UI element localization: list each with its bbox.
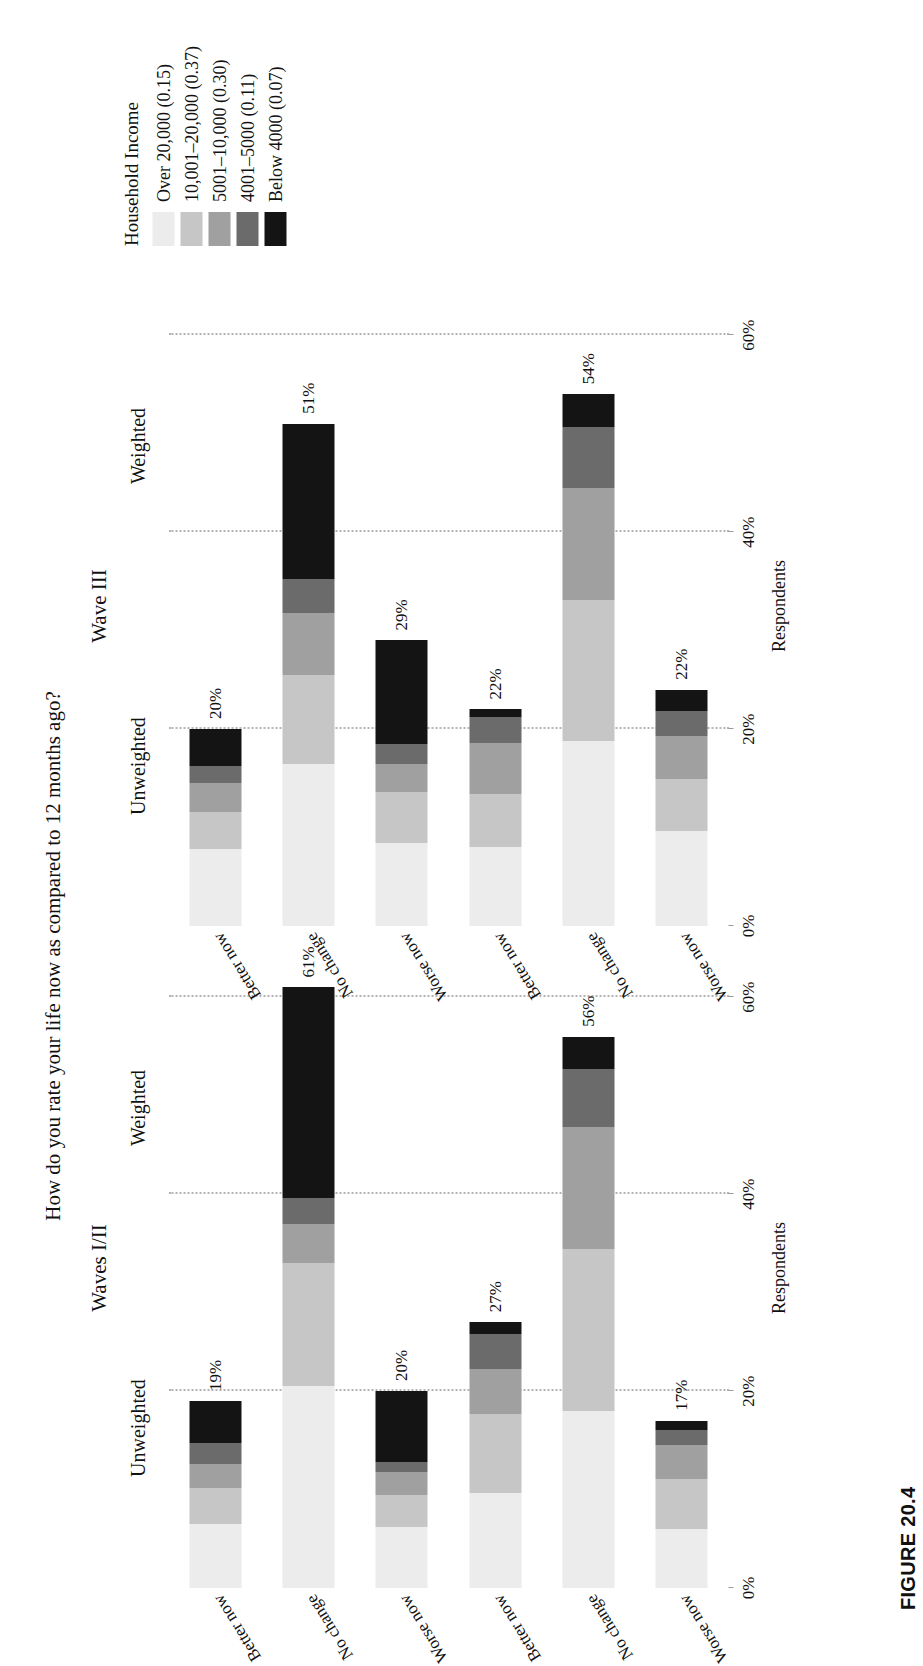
bar-segment — [655, 1445, 707, 1478]
bar-segment — [655, 779, 707, 831]
bar-segment — [282, 579, 334, 612]
bar-segment — [189, 1401, 241, 1443]
bar-segment — [189, 766, 241, 784]
bar-value-label: 56% — [578, 995, 598, 1026]
bar-value-label: 19% — [205, 1360, 225, 1391]
bar-segment — [375, 1527, 427, 1588]
value-axis: 0%20%40%60%Respondents — [728, 948, 729, 1588]
category-label: No change — [302, 1591, 358, 1664]
axis-tick — [728, 334, 733, 335]
bar-segment — [655, 690, 707, 712]
bar-segment — [655, 1430, 707, 1446]
bar-segment — [189, 783, 241, 812]
legend-item-label: Below 4000 (0.07) — [265, 67, 286, 202]
bar-segment — [469, 743, 521, 794]
legend-item: Below 4000 (0.07) — [264, 46, 286, 246]
bar-segment — [469, 1334, 521, 1369]
axis-tick — [728, 728, 733, 729]
legend-item-label: 4001–5000 (0.11) — [237, 74, 258, 202]
bar-segment — [282, 424, 334, 580]
stacked-bar[interactable] — [469, 709, 521, 926]
category-label: Better now — [208, 1591, 265, 1665]
stacked-bar[interactable] — [562, 394, 614, 926]
bar-segment — [655, 1529, 707, 1588]
panel-wave-iii: Wave IIIUnweightedWeighted0%20%40%60%Res… — [86, 286, 866, 926]
bar-segment — [469, 717, 521, 743]
group-title: Weighted — [126, 286, 149, 606]
bar-segment — [469, 1322, 521, 1334]
bar-value-label: 29% — [391, 599, 411, 630]
legend-item-label: Over 20,000 (0.15) — [153, 64, 174, 202]
bar-segment — [469, 709, 521, 717]
axis-title: Respondents — [768, 948, 789, 1588]
bar-segment — [655, 1479, 707, 1529]
bar-segment — [375, 641, 427, 744]
bar-segment — [189, 1464, 241, 1488]
plot-area: 0%20%40%60%RespondentsBetter now20%No ch… — [168, 286, 728, 926]
stacked-bar[interactable] — [282, 987, 334, 1588]
bar-segment — [189, 1488, 241, 1524]
legend: Household Income Over 20,000 (0.15)10,00… — [120, 46, 292, 246]
bar-segment — [282, 613, 334, 675]
bar-row: 54% — [562, 286, 614, 926]
bar-segment — [469, 1414, 521, 1494]
bar-segment — [562, 394, 614, 426]
stacked-bar[interactable] — [375, 1391, 427, 1588]
bar-segment — [375, 1462, 427, 1472]
bar-segment — [189, 729, 241, 765]
stacked-bar[interactable] — [655, 1421, 707, 1588]
gridline — [168, 530, 728, 532]
bar-value-label: 22% — [485, 668, 505, 699]
axis-tick — [728, 1587, 733, 1588]
bar-segment — [469, 1493, 521, 1588]
stacked-bar[interactable] — [189, 729, 241, 926]
bar-segment — [562, 488, 614, 600]
bar-segment — [282, 987, 334, 1198]
bar-segment — [375, 744, 427, 764]
gridline — [168, 1192, 728, 1194]
bar-segment — [375, 1495, 427, 1527]
stacked-bar[interactable] — [469, 1322, 521, 1588]
legend-swatch-icon — [152, 212, 174, 246]
axis-tick — [728, 925, 733, 926]
bar-segment — [562, 1249, 614, 1410]
bar-segment — [655, 831, 707, 926]
stacked-bar[interactable] — [375, 641, 427, 927]
bar-segment — [189, 849, 241, 926]
bar-row: 56% — [562, 948, 614, 1588]
bar-segment — [562, 1037, 614, 1069]
bar-value-label: 22% — [671, 649, 691, 680]
bar-segment — [655, 711, 707, 736]
bar-value-label: 27% — [485, 1281, 505, 1312]
bar-segment — [282, 1386, 334, 1588]
plot-area: 0%20%40%60%RespondentsBetter now19%No ch… — [168, 948, 728, 1588]
category-label: Better now — [488, 1591, 545, 1665]
bar-segment — [375, 843, 427, 926]
axis-tick-label: 0% — [738, 1577, 758, 1600]
bar-segment — [655, 736, 707, 779]
legend-swatch-icon — [180, 212, 202, 246]
bar-row: 22% — [655, 286, 707, 926]
stacked-bar[interactable] — [282, 424, 334, 926]
bar-value-label: 20% — [391, 1350, 411, 1381]
bar-segment — [282, 764, 334, 926]
stacked-bar[interactable] — [655, 690, 707, 926]
bar-segment — [655, 1421, 707, 1430]
axis-tick-label: 20% — [738, 1375, 758, 1406]
bar-value-label: 17% — [671, 1379, 691, 1410]
legend-swatch-icon — [264, 212, 286, 246]
legend-item: 5001–10,000 (0.30) — [208, 46, 230, 246]
stacked-bar[interactable] — [189, 1401, 241, 1588]
legend-item: 10,001–20,000 (0.37) — [180, 46, 202, 246]
bar-segment — [282, 1198, 334, 1224]
axis-tick — [728, 1193, 733, 1194]
panel-waves-i-ii: Waves I/IIUnweightedWeighted0%20%40%60%R… — [86, 948, 866, 1588]
value-axis: 0%20%40%60%Respondents — [728, 286, 729, 926]
bar-row: 27% — [469, 948, 521, 1588]
bar-segment — [469, 794, 521, 847]
stacked-bar[interactable] — [562, 1037, 614, 1588]
panel-title: Wave III — [86, 286, 111, 926]
group-title: Weighted — [126, 948, 149, 1268]
category-label: Worse now — [395, 1591, 453, 1666]
